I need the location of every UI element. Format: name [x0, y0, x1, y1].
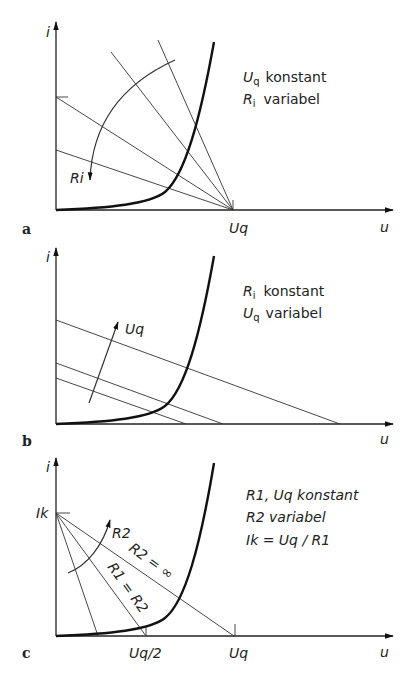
load-lines: [56, 513, 235, 636]
r2-arrow-label: R2: [112, 525, 131, 541]
y-axis-label: i: [46, 24, 50, 40]
uq-tick-label: Uq: [229, 645, 248, 661]
legend-line-1: R1, Uq konstant: [246, 487, 359, 503]
r1-equals-r2-label: R1 = R2: [105, 559, 152, 615]
uq-half-tick-label: Uq/2: [129, 645, 162, 661]
legend-line-2: Rivariabel: [243, 91, 320, 109]
diode-characteristic-curve: [56, 256, 214, 424]
uq-arrow-label: Uq: [125, 321, 144, 337]
r2-infinity-label: R2 = ∞: [126, 539, 177, 582]
panel-label: a: [22, 221, 31, 237]
diagram-canvas: i u a Ri Uq Uqkonstant Rivariabel i u b: [0, 0, 415, 694]
panel-a: i u a Ri Uq Uqkonstant Rivariabel: [22, 22, 393, 237]
panel-label: b: [22, 433, 32, 449]
ri-arrow-label: Ri: [70, 170, 84, 186]
legend-line-2: R2 variabel: [246, 509, 326, 525]
y-axis-label: i: [46, 459, 50, 475]
panel-b: i u b Uq Rikonstant Uqvariabel: [22, 248, 393, 449]
legend-line-1: Uqkonstant: [243, 69, 327, 87]
panel-label: c: [22, 645, 31, 661]
legend-line-1: Rikonstant: [243, 283, 325, 301]
ri-arrow: [90, 60, 175, 180]
x-axis-label: u: [380, 644, 389, 660]
uq-tick-label: Uq: [229, 220, 248, 236]
x-axis-label: u: [380, 219, 389, 235]
y-axis-label: i: [46, 249, 50, 265]
legend-line-3: Ik = Uq / R1: [246, 532, 330, 548]
x-axis-label: u: [380, 431, 389, 447]
legend-line-2: Uqvariabel: [243, 305, 322, 323]
ik-tick-label: Ik: [36, 505, 49, 521]
panel-c: i u c Ik R2 R2 = ∞ R1 = R2 Uq/2 Uq R1, U…: [22, 458, 393, 661]
